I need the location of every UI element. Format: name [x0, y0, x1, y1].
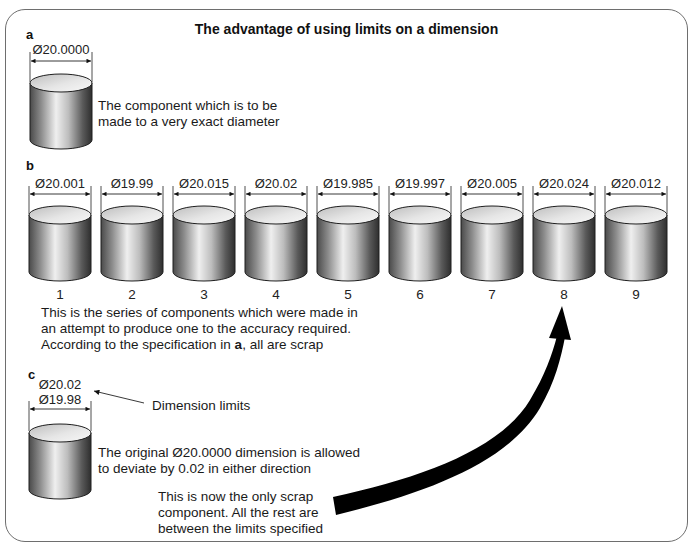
description-text: According to the specification in: [41, 337, 235, 352]
panel-b-description-line2: an attempt to produce one to the accurac…: [41, 321, 351, 337]
component-8-number: 8: [533, 287, 595, 302]
scrap-note-line3: between the limits specified: [158, 521, 323, 537]
component-6-dimension: Ø19.997: [384, 176, 456, 191]
component-2-dimension: Ø19.99: [96, 176, 168, 191]
dimension-limits-leader: [94, 391, 144, 403]
panel-a-reference: a: [235, 337, 243, 352]
component-7-number: 7: [461, 287, 523, 302]
component-6-number: 6: [389, 287, 451, 302]
panel-a-dimension: Ø20.0000: [20, 42, 102, 57]
component-series-cylinders: [29, 186, 667, 281]
component-9-dimension: Ø20.012: [600, 176, 672, 191]
component-9-number: 9: [605, 287, 667, 302]
component-3-dimension: Ø20.015: [168, 176, 240, 191]
dimension-limits-callout: Dimension limits: [152, 398, 250, 414]
component-c-cylinder: [29, 401, 91, 499]
panel-a-description-line2: made to a very exact diameter: [98, 114, 280, 130]
component-3-number: 3: [173, 287, 235, 302]
component-a-cylinder: [30, 52, 92, 149]
panel-a-label: a: [26, 27, 33, 42]
panel-c-description-line2: to deviate by 0.02 in either direction: [98, 461, 311, 477]
panel-b-description-line1: This is the series of components which w…: [41, 305, 358, 321]
component-8-dimension: Ø20.024: [528, 176, 600, 191]
component-4-number: 4: [245, 287, 307, 302]
component-4-dimension: Ø20.02: [240, 176, 312, 191]
component-5-dimension: Ø19.985: [312, 176, 384, 191]
component-7-dimension: Ø20.005: [456, 176, 528, 191]
component-5-number: 5: [317, 287, 379, 302]
scrap-pointer-arrow: [333, 306, 571, 515]
panel-b-description-line3: According to the specification in a, all…: [41, 337, 323, 353]
upper-limit-dimension: Ø20.02: [20, 377, 100, 392]
panel-a-description-line1: The component which is to be: [98, 98, 277, 114]
component-2-number: 2: [101, 287, 163, 302]
scrap-note-line2: component. All the rest are: [158, 505, 319, 521]
lower-limit-dimension: Ø19.98: [20, 392, 100, 407]
scrap-note-line1: This is now the only scrap: [158, 489, 313, 505]
panel-c-description-line1: The original Ø20.0000 dimension is allow…: [98, 445, 360, 461]
panel-b-label: b: [26, 158, 34, 173]
component-1-dimension: Ø20.001: [24, 176, 96, 191]
description-text: , all are scrap: [242, 337, 323, 352]
component-1-number: 1: [29, 287, 91, 302]
